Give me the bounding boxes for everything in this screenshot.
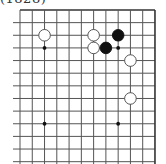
white-stone — [88, 29, 100, 41]
board-grid — [13, 10, 155, 164]
go-board — [0, 0, 166, 164]
white-stone — [125, 93, 137, 105]
black-stone — [112, 29, 124, 41]
stones — [39, 29, 136, 104]
black-stone — [100, 42, 112, 54]
white-stone — [88, 42, 100, 54]
white-stone — [39, 29, 51, 41]
star-point — [116, 46, 120, 50]
star-point — [116, 122, 120, 126]
star-point — [43, 122, 47, 126]
star-point — [43, 46, 47, 50]
white-stone — [125, 55, 137, 67]
